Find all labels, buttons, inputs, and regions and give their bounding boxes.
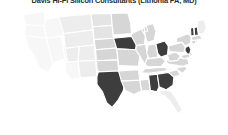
state-LA[interactable] (121, 80, 141, 94)
us-choropleth-map[interactable] (0, 6, 228, 135)
us-state-map-widget: Davis Hi-Fi Silicon Consultants (Lithoni… (0, 0, 228, 135)
state-MN[interactable] (111, 13, 131, 35)
state-NJ[interactable] (185, 46, 191, 55)
state-FL[interactable] (159, 90, 182, 114)
state-SD[interactable] (93, 25, 114, 39)
state-CO[interactable] (78, 45, 96, 61)
map-container[interactable] (0, 6, 228, 135)
state-NM[interactable] (78, 60, 97, 78)
state-WV[interactable] (167, 52, 180, 61)
state-TN[interactable] (142, 67, 169, 73)
state-KS[interactable] (96, 48, 118, 61)
state-ND[interactable] (91, 13, 112, 26)
state-KY[interactable] (145, 57, 166, 67)
state-AR[interactable] (119, 70, 140, 82)
state-VT[interactable] (190, 27, 194, 36)
state-ME[interactable] (197, 19, 206, 34)
state-OK[interactable] (96, 60, 118, 72)
